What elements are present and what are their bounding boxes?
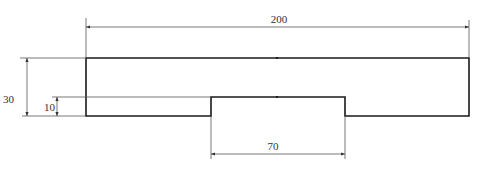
dimension-step-height: 10 [44,97,211,116]
center-mark-step [276,96,278,98]
dimension-label-200: 200 [271,13,288,25]
dimension-label-30: 30 [3,93,15,105]
technical-drawing: 200 70 30 10 [0,0,485,172]
part-outline [86,58,469,116]
dimension-label-10: 10 [44,101,56,113]
dimension-overall-width: 200 [86,13,469,58]
dimension-label-70: 70 [268,140,280,152]
dimension-step-width: 70 [211,116,345,159]
center-mark-top [276,57,278,59]
